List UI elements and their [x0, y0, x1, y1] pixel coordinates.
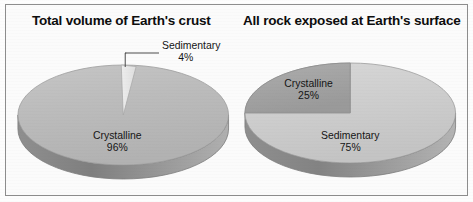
pie-chart-exposed-rock: Crystalline 25% Sedimentary 75%	[237, 5, 468, 195]
pie-chart-total-volume: Sedimentary 4% Crystalline 96%	[6, 5, 237, 195]
slice-label-crystalline-name-left: Crystalline	[93, 130, 142, 141]
callout-label-sedimentary-percent: 4%	[178, 52, 193, 63]
callout-label-sedimentary-name: Sedimentary	[162, 40, 221, 51]
slice-label-crystalline-name-right: Crystalline	[284, 78, 333, 89]
slice-label-crystalline-percent-left: 96%	[107, 142, 128, 153]
figure-root: Total volume of Earth's crust	[0, 0, 473, 202]
slice-label-sedimentary-name-right: Sedimentary	[321, 130, 380, 141]
chart-panel-exposed-rock: All rock exposed at Earth's surface	[237, 5, 468, 195]
chart-panel-total-volume: Total volume of Earth's crust	[6, 5, 237, 195]
slice-label-sedimentary-percent-right: 75%	[339, 142, 360, 153]
figure-frame: Total volume of Earth's crust	[5, 4, 468, 196]
slice-label-crystalline-percent-right: 25%	[298, 90, 319, 101]
